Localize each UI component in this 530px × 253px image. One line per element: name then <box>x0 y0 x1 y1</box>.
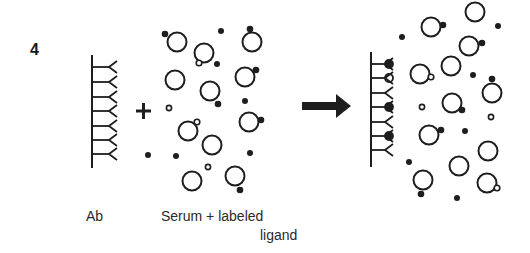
serum-mixture <box>145 26 264 194</box>
plus-icon <box>136 103 151 119</box>
arrow-right-icon <box>302 94 351 118</box>
serum-label-line1: Serum + labeled <box>161 209 263 223</box>
serum-label-line2: ligand <box>260 228 297 242</box>
product-mixture <box>399 3 502 202</box>
antibody-right-bound-icon <box>371 52 393 167</box>
panel-number: 4 <box>30 42 39 58</box>
antibody-left-icon <box>92 55 117 168</box>
antibody-label: Ab <box>86 209 103 223</box>
ria-diagram <box>0 0 530 253</box>
